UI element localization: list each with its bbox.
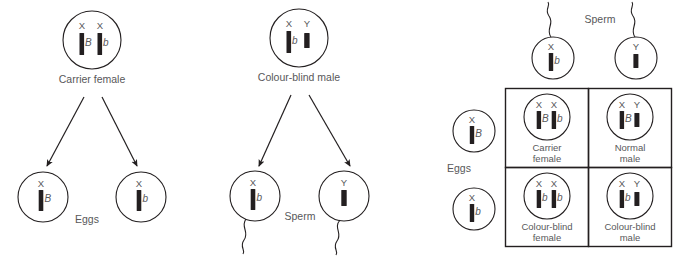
label-eggs: Eggs: [75, 213, 99, 225]
meiosis-arrow-right: [309, 95, 350, 166]
chromosome-label-x1: X: [536, 178, 543, 189]
chromosome-bar-x: [470, 204, 474, 222]
chromosome-label-y: Y: [304, 18, 311, 29]
sperm-tail: [242, 219, 246, 254]
chromosome-bar-x1: [537, 190, 541, 208]
chromosome-label-x: X: [619, 178, 626, 189]
allele-label: b: [257, 192, 263, 203]
punnett-column-gamete-x: X b: [532, 2, 574, 79]
meiosis-arrow-left: [47, 97, 84, 166]
chromosome-bar-y: [634, 113, 639, 127]
chromosome-bar-x: [251, 189, 256, 210]
chromosome-bar-x2: [552, 190, 556, 208]
cell-membrane: [63, 11, 121, 69]
allele-label: B: [45, 193, 52, 204]
chromosome-bar-y: [634, 192, 639, 206]
chromosome-bar-x: [287, 31, 292, 53]
meiosis-arrow-right: [102, 97, 137, 166]
chromosome-label-y: Y: [341, 177, 348, 188]
punnett-offspring-colour-blind-female: X b X b Colour-blind female: [521, 173, 572, 243]
allele-label-x1: B: [542, 113, 549, 124]
chromosome-bar-x2: [552, 111, 556, 129]
allele-label-x2: b: [103, 37, 109, 48]
chromosome-bar-x: [137, 190, 142, 211]
punnett-column-gamete-y: Y: [615, 2, 657, 79]
punnett-row-gamete-xb-recessive: X b: [453, 188, 495, 230]
chromosome-bar-x: [620, 190, 624, 208]
chromosome-label-x: X: [469, 192, 476, 203]
parent-cell-carrier-female: X B X b: [63, 11, 121, 69]
chromosome-label-x2: X: [551, 178, 558, 189]
parent-cell-colour-blind-male: X b Y: [270, 9, 328, 67]
allele-label: b: [554, 55, 560, 66]
panel-punnett-square: Sperm X b Y X B: [447, 2, 671, 247]
chromosome-bar-x: [470, 126, 474, 144]
chromosome-bar-y: [341, 190, 346, 206]
offspring-caption-line2: female: [533, 232, 562, 243]
sperm-tail: [631, 2, 635, 37]
allele-label-x: B: [625, 113, 632, 124]
allele-label-x: b: [625, 192, 631, 203]
gamete-egg-xb-recessive: X b: [116, 172, 166, 222]
gamete-sperm-y: Y: [319, 171, 369, 255]
label-sperm-header: Sperm: [585, 13, 616, 25]
offspring-caption-line1: Colour-blind: [521, 221, 572, 232]
genetics-diagram: X B X b Carrier female X B X: [0, 0, 679, 257]
allele-label: b: [475, 206, 481, 217]
chromosome-bar-x1: [80, 33, 85, 55]
offspring-caption-line2: male: [620, 153, 641, 164]
label-eggs-header: Eggs: [447, 162, 471, 174]
punnett-offspring-colour-blind-male: X b Y Colour-blind male: [604, 173, 655, 243]
caption-carrier-female: Carrier female: [59, 73, 126, 85]
chromosome-bar-x1: [537, 111, 541, 129]
panel-male-cross: X b Y Colour-blind male X b Y: [230, 9, 369, 255]
chromosome-bar-y: [633, 54, 638, 68]
chromosome-label-y: Y: [633, 41, 640, 52]
punnett-offspring-carrier-female: X B X b Carrier female: [524, 94, 570, 164]
chromosome-label-x1: X: [536, 99, 543, 110]
chromosome-bar-x: [39, 190, 44, 211]
chromosome-label-y: Y: [634, 178, 641, 189]
chromosome-label-x: X: [619, 99, 626, 110]
chromosome-label-y: Y: [634, 99, 641, 110]
offspring-caption-line1: Carrier: [532, 142, 561, 153]
chromosome-label-x: X: [38, 178, 45, 189]
chromosome-label-x2: X: [551, 99, 558, 110]
offspring-caption-line2: female: [533, 153, 562, 164]
meiosis-arrow-left: [259, 95, 291, 166]
chromosome-label-x: X: [548, 41, 555, 52]
allele-label: B: [475, 128, 482, 139]
label-sperm: Sperm: [285, 210, 316, 222]
chromosome-bar-y: [304, 33, 309, 48]
allele-label-x2: b: [557, 192, 563, 203]
chromosome-bar-x2: [98, 33, 103, 55]
chromosome-bar-x: [549, 53, 553, 71]
cell-membrane: [270, 9, 328, 67]
chromosome-bar-x: [620, 111, 624, 129]
chromosome-label-x: X: [286, 18, 293, 29]
gamete-sperm-x: X b: [230, 171, 280, 254]
chromosome-label-x: X: [469, 114, 476, 125]
punnett-row-gamete-xb-dominant: X B: [453, 110, 495, 152]
allele-label: b: [143, 193, 149, 204]
sperm-tail: [547, 2, 551, 37]
panel-female-cross: X B X b Carrier female X B X: [18, 11, 166, 225]
offspring-caption-line1: Normal: [615, 142, 646, 153]
chromosome-label-x: X: [136, 178, 143, 189]
gamete-egg-xb-dominant: X B: [18, 172, 68, 222]
chromosome-label-x2: X: [97, 20, 104, 31]
allele-label-x1: B: [85, 37, 92, 48]
caption-colour-blind-male: Colour-blind male: [258, 71, 340, 83]
offspring-caption-line1: Colour-blind: [604, 221, 655, 232]
chromosome-label-x: X: [250, 177, 257, 188]
allele-label-x: b: [292, 35, 298, 46]
punnett-offspring-normal-male: X B Y Normal male: [607, 94, 653, 164]
chromosome-label-x1: X: [79, 20, 86, 31]
sperm-tail: [335, 220, 340, 255]
allele-label-x1: b: [542, 192, 548, 203]
offspring-caption-line2: male: [620, 232, 641, 243]
allele-label-x2: b: [557, 113, 563, 124]
diagram-canvas: X B X b Carrier female X B X: [0, 0, 679, 257]
